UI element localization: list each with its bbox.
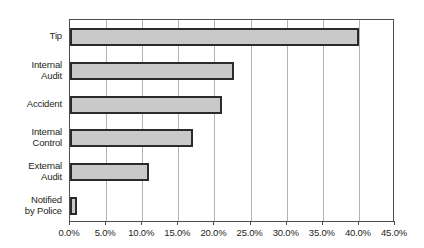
bar (70, 96, 222, 114)
tick-mark (250, 221, 251, 225)
tick-mark (177, 221, 178, 225)
tick-label: 15.0% (164, 226, 190, 239)
tick-label: 25.0% (237, 226, 263, 239)
bar (70, 197, 77, 215)
tick-label: 0.0% (59, 226, 80, 239)
tick-label: 20.0% (200, 226, 226, 239)
tick-label: 5.0% (95, 226, 116, 239)
bar (70, 62, 234, 80)
tick-label: 30.0% (273, 226, 299, 239)
tick-label: 40.0% (345, 226, 371, 239)
bars-layer (70, 20, 393, 221)
tick-mark (69, 221, 70, 225)
category-label: Internal Audit (0, 59, 62, 81)
tick-mark (286, 221, 287, 225)
tick-mark (141, 221, 142, 225)
tick-label: 35.0% (309, 226, 335, 239)
tick-mark (213, 221, 214, 225)
category-label: Internal Control (0, 126, 62, 148)
tick-mark (105, 221, 106, 225)
category-label: Notified by Police (0, 194, 62, 216)
gridline-450 (395, 20, 396, 221)
bar (70, 28, 359, 46)
tick-label: 10.0% (128, 226, 154, 239)
category-label: Tip (0, 30, 62, 41)
category-label: External Audit (0, 160, 62, 182)
bar-chart: TipInternal AuditAccidentInternal Contro… (0, 0, 424, 248)
bar (70, 129, 193, 147)
category-label: Accident (0, 98, 62, 109)
bar (70, 163, 149, 181)
tick-mark (394, 221, 395, 225)
tick-label: 45.0% (381, 226, 407, 239)
category-axis: TipInternal AuditAccidentInternal Contro… (0, 19, 66, 222)
tick-mark (322, 221, 323, 225)
value-axis: 0.0%5.0%10.0%15.0%20.0%25.0%30.0%35.0%40… (69, 226, 394, 242)
tick-mark (358, 221, 359, 225)
plot-area (69, 19, 394, 222)
